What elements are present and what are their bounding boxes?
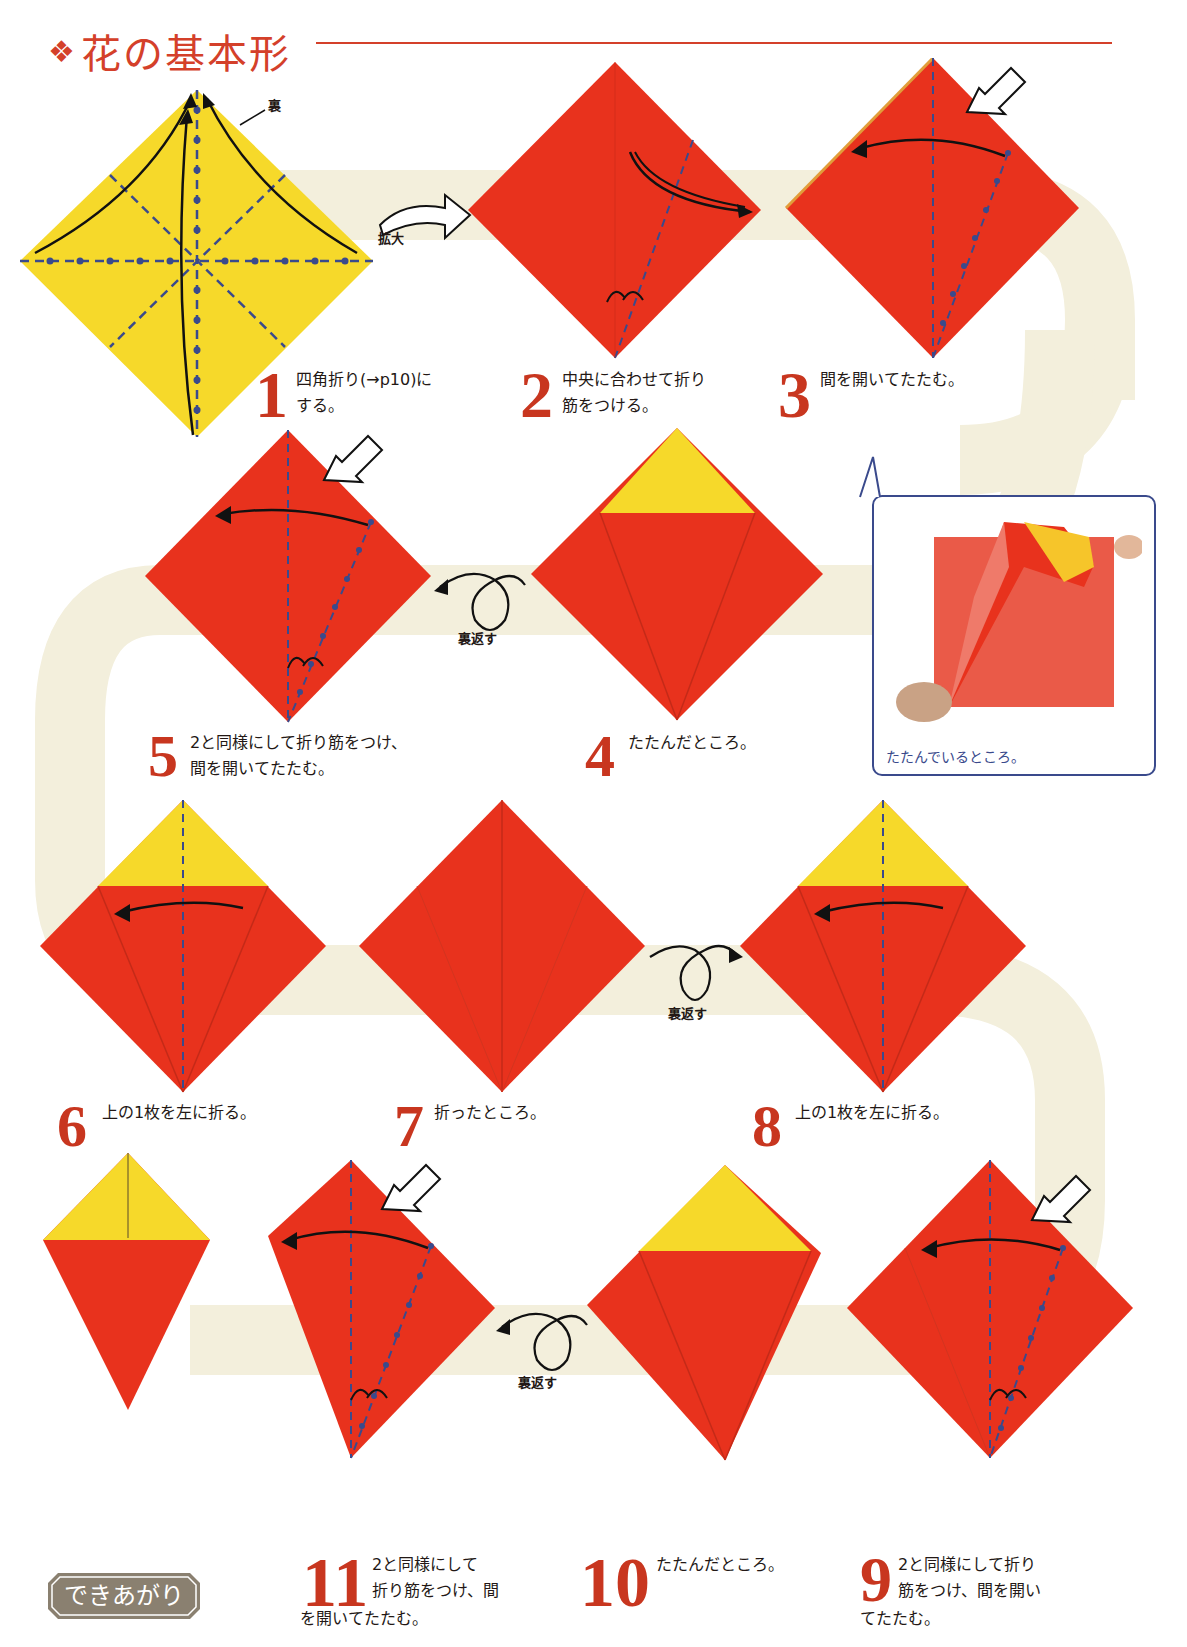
- step-11-text-line2: 折り筋をつけ、間: [372, 1578, 499, 1604]
- step-1-number: 1: [255, 362, 288, 428]
- finished-diagram: [40, 1150, 220, 1415]
- step-2-text-line2: 筋をつける。: [562, 393, 658, 419]
- kakudai-label: 拡大: [378, 228, 404, 247]
- title-rule: [316, 42, 1112, 44]
- flip-label: 裏返す: [518, 1372, 557, 1391]
- step-1-text-line2: する。: [296, 393, 344, 419]
- step-6-number: 6: [57, 1096, 87, 1156]
- step-2-diagram: [465, 62, 765, 362]
- step-9-text-line2: 筋をつけ、間を開い: [898, 1578, 1041, 1604]
- step-7-number: 7: [394, 1096, 424, 1156]
- step-11-text-line3: を開いてたたむ。: [300, 1606, 428, 1632]
- flip-label: 裏返す: [458, 628, 497, 647]
- step-9-text-line1: 2と同様にして折り: [898, 1552, 1036, 1578]
- step-11-text-line1: 2と同様にして: [372, 1552, 478, 1578]
- step-4-diagram: [530, 428, 825, 723]
- flip-over-icon: [645, 935, 745, 1010]
- step-6-text-line1: 上の1枚を左に折る。: [102, 1100, 256, 1126]
- step-8-diagram: [738, 800, 1028, 1095]
- step-5-text-line1: 2と同様にして折り筋をつけ、: [190, 730, 407, 756]
- push-arrow-icon: [1028, 1168, 1098, 1238]
- step-3-text-line1: 間を開いてたたむ。: [820, 367, 964, 393]
- step-9-text-line3: てたたむ。: [860, 1606, 940, 1632]
- step-8-text-line1: 上の1枚を左に折る。: [795, 1100, 949, 1126]
- step-4-number: 4: [585, 726, 615, 786]
- diamond-ornament-icon: ❖: [48, 34, 75, 69]
- step-5-text-line2: 間を開いてたたむ。: [190, 756, 334, 782]
- flip-label: 裏返す: [668, 1003, 707, 1022]
- push-arrow-icon: [963, 60, 1033, 130]
- callout-pointer: [858, 455, 888, 500]
- title-text: 花の基本形: [81, 22, 291, 80]
- folding-photo: [884, 507, 1142, 727]
- push-arrow-icon: [378, 1157, 448, 1227]
- step-10-diagram: [585, 1165, 825, 1465]
- flip-over-icon: [492, 1305, 592, 1380]
- step-6-diagram: [38, 800, 328, 1095]
- step-2-number: 2: [520, 362, 553, 428]
- step-8-number: 8: [752, 1096, 782, 1156]
- page-title: ❖ 花の基本形: [48, 22, 291, 80]
- photo-callout: たたんでいるところ。: [872, 495, 1156, 776]
- step-9-number: 9: [860, 1548, 892, 1612]
- step-3-number: 3: [778, 362, 811, 428]
- step-3-diagram: [783, 58, 1083, 368]
- photo-caption: たたんでいるところ。: [886, 746, 1025, 766]
- done-label: できあがり: [48, 1573, 200, 1619]
- step-10-text-line1: たたんだところ。: [656, 1552, 784, 1578]
- step-7-text-line1: 折ったところ。: [434, 1100, 546, 1126]
- step-7-diagram: [357, 800, 647, 1095]
- ura-label: 裏: [268, 95, 281, 114]
- step-1-text-line1: 四角折り(→p10)に: [296, 367, 432, 393]
- step-2-text-line1: 中央に合わせて折り: [562, 367, 706, 393]
- step-5-number: 5: [148, 726, 178, 786]
- step-4-text-line1: たたんだところ。: [628, 730, 756, 756]
- push-arrow-icon: [320, 428, 390, 498]
- step-10-number: 10: [580, 1548, 650, 1618]
